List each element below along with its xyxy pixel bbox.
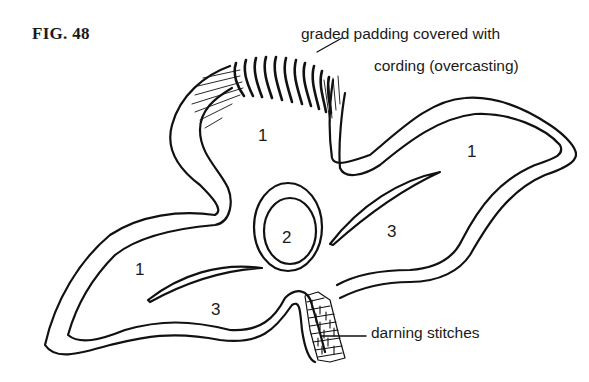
region-label-left-inner: 3 — [211, 300, 220, 320]
right-slit — [330, 172, 440, 245]
region-label-top-petal: 1 — [258, 126, 267, 146]
embroidery-figure: FIG. 48 graded padding covered with cord… — [0, 0, 589, 382]
padding-callout-line2: cording (overcasting) — [374, 57, 519, 75]
padding-callout-line1: graded padding covered with — [301, 25, 500, 43]
darning-callout: darning stitches — [371, 324, 480, 342]
figure-title: FIG. 48 — [32, 24, 90, 44]
left-slit — [148, 267, 262, 302]
region-label-right-inner: 3 — [387, 222, 396, 242]
region-label-center: 2 — [282, 228, 291, 248]
region-label-right-petal: 1 — [467, 142, 476, 162]
cording-coils — [235, 57, 331, 113]
region-label-left-petal: 1 — [135, 260, 144, 280]
